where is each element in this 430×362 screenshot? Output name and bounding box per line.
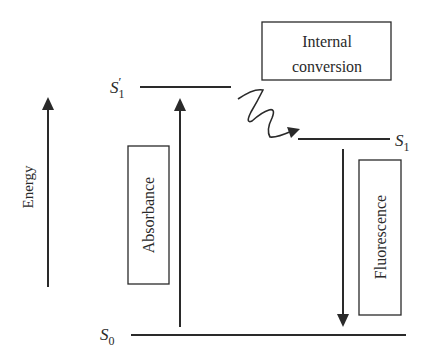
internal-conversion-label-line1: Internal bbox=[302, 33, 352, 50]
wavy-arrow-line bbox=[238, 90, 292, 137]
internal-conversion-process: Internal conversion bbox=[238, 22, 391, 138]
level-s1-prime: S1′ bbox=[110, 74, 231, 101]
fluorescence-label: Fluorescence bbox=[372, 195, 389, 279]
fluorescence-process: Fluorescence bbox=[337, 149, 401, 327]
absorbance-label: Absorbance bbox=[140, 177, 157, 253]
level-s1: S1 bbox=[298, 131, 410, 154]
level-s0: S0 bbox=[100, 325, 406, 348]
level-s1-label: S1 bbox=[395, 131, 410, 154]
level-s0-label: S0 bbox=[100, 325, 115, 348]
energy-axis: Energy bbox=[20, 97, 54, 287]
energy-axis-label: Energy bbox=[20, 165, 36, 209]
energy-arrow-up-icon bbox=[42, 97, 54, 110]
arrow-up-icon bbox=[174, 98, 186, 111]
jablonski-diagram: Energy S1′ S1 S0 Absorbance Internal con… bbox=[0, 0, 430, 362]
absorbance-process: Absorbance bbox=[128, 98, 186, 327]
internal-conversion-label-line2: conversion bbox=[292, 58, 362, 75]
arrow-down-icon bbox=[337, 314, 349, 327]
level-s1-prime-label: S1′ bbox=[110, 74, 125, 101]
